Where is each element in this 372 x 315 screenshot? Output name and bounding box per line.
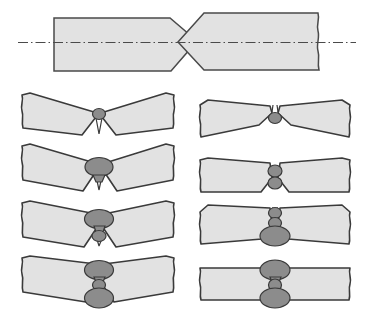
panel-left-4 <box>21 256 174 308</box>
left-3-plate-right <box>102 201 175 247</box>
panel-left-1 <box>21 93 174 135</box>
left-3-bead-small-bottom <box>92 231 106 242</box>
right-2-bead-small-top <box>268 165 282 177</box>
left-2-bead-large-top <box>85 158 113 177</box>
right-3-bead-large-bottom <box>260 226 290 246</box>
left-1-plate-left <box>21 93 96 135</box>
right-2-plate-right <box>278 158 351 192</box>
left-1-bead-root-small <box>93 109 106 120</box>
top-joint-left-plate <box>54 18 197 71</box>
panel-left-2 <box>21 144 174 191</box>
panel-right-3 <box>199 205 350 246</box>
right-3-bead-small-top-1 <box>269 208 282 219</box>
right-2-plate-left <box>199 158 272 192</box>
left-1-root-gap <box>96 118 102 134</box>
left-4-bead-large-bottom <box>85 288 114 308</box>
left-2-plate-right <box>103 144 175 191</box>
right-1-plate-right <box>278 100 351 137</box>
weld-distortion-figure <box>0 0 372 315</box>
right-1-plate-left <box>199 100 272 137</box>
diagram-stage <box>0 0 372 315</box>
left-1-plate-right <box>102 93 175 135</box>
right-1-bead-root-small <box>269 113 282 124</box>
right-2-bead-small-bottom <box>268 177 282 189</box>
panel-right-4 <box>199 260 350 308</box>
left-2-bead-neck <box>93 175 105 182</box>
top-joint-right-plate <box>178 13 319 70</box>
panel-left-3 <box>21 201 174 247</box>
panel-right-2 <box>199 158 350 192</box>
panel-right-1 <box>199 100 350 137</box>
right-4-bead-large-bottom <box>260 288 290 308</box>
panel-top-joint <box>18 13 356 71</box>
right-1-root-gap <box>272 105 278 112</box>
